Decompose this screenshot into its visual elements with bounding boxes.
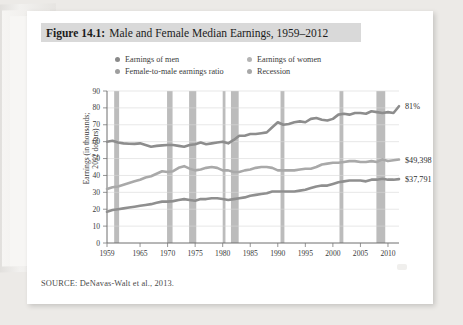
x-tick-label: 2005	[353, 249, 368, 258]
recession-band	[231, 91, 239, 243]
y-tick-label: 40	[92, 171, 100, 180]
y-tick-label: 10	[92, 222, 100, 231]
x-tick-label: 2000	[325, 249, 340, 258]
legend-label: Earnings of men	[125, 55, 179, 64]
women-end-label: $37,791	[405, 175, 432, 184]
legend-dot-icon	[247, 69, 252, 74]
y-tick-label: 80	[92, 103, 100, 112]
legend-dot-icon	[115, 57, 120, 62]
recession-band	[189, 91, 196, 243]
y-tick-label: 50	[92, 154, 100, 163]
y-tick-label: 0	[96, 239, 100, 248]
y-tick-label: 20	[92, 205, 100, 214]
legend-item-recession: Recession	[247, 67, 385, 76]
page-speckle	[397, 264, 407, 270]
legend-item-earnings-ratio: Female-to-male earnings ratio	[115, 67, 247, 76]
ratio-end-label: 81%	[405, 102, 420, 111]
data-series-line	[107, 179, 399, 212]
y-tick-label: 60	[92, 137, 100, 146]
x-tick-label: 1959	[99, 249, 114, 258]
legend-dot-icon	[247, 57, 252, 62]
recession-band	[223, 91, 226, 243]
x-tick-label: 1990	[270, 249, 285, 258]
men-end-label: $49,398	[405, 156, 432, 165]
x-tick-label: 1995	[298, 249, 313, 258]
figure-page: Figure 14.1: Male and Female Median Earn…	[27, 11, 433, 304]
recession-band	[281, 91, 285, 243]
legend-label: Female-to-male earnings ratio	[125, 67, 224, 76]
legend-item-earnings-of-women: Earnings of women	[247, 55, 385, 64]
y-tick-label: 90	[92, 87, 100, 96]
figure-title: Male and Female Median Earnings, 1959–20…	[109, 27, 328, 39]
data-series-line	[107, 106, 399, 147]
figure-number: Figure 14.1:	[46, 27, 105, 39]
x-tick-label: 1980	[215, 249, 230, 258]
x-tick-label: 2010	[380, 249, 395, 258]
recession-band	[114, 91, 119, 243]
y-tick-label: 70	[92, 120, 100, 129]
x-tick-label: 1965	[132, 249, 147, 258]
x-tick-label: 1985	[243, 249, 258, 258]
chart-plot-area: Earnings (in thousands; 2012 dollars) 01…	[27, 81, 433, 271]
legend-label: Earnings of women	[257, 55, 321, 64]
data-series-line	[107, 159, 399, 189]
x-tick-label: 1975	[188, 249, 203, 258]
recession-band	[167, 91, 173, 243]
line-chart-svg: 0102030405060708090195919651970197519801…	[27, 81, 433, 271]
figure-title-band: Figure 14.1: Male and Female Median Earn…	[41, 23, 361, 42]
legend-label: Recession	[257, 67, 290, 76]
chart-legend: Earnings of men Earnings of women Female…	[115, 55, 385, 76]
y-tick-label: 30	[92, 188, 100, 197]
x-tick-label: 1970	[160, 249, 175, 258]
legend-dot-icon	[115, 69, 120, 74]
figure-source: SOURCE: DeNavas-Walt et al., 2013.	[41, 279, 174, 288]
legend-item-earnings-of-men: Earnings of men	[115, 55, 247, 64]
